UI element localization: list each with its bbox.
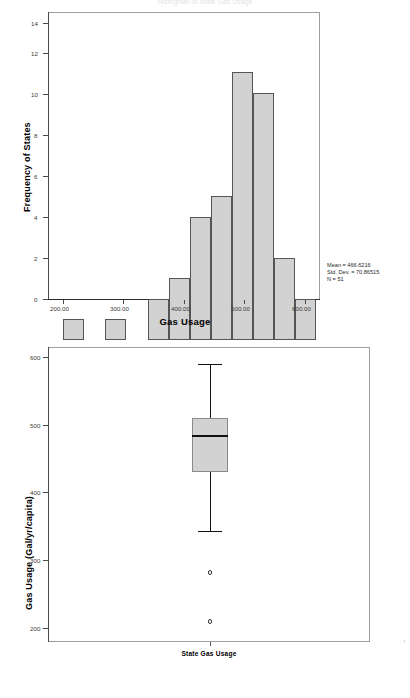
histogram-xtick-label: 600.00 [292,305,311,312]
boxplot-outlier-point [208,619,213,624]
boxplot-y-axis-title: Gas Usage (Gal/yr/capita) [24,496,34,610]
histogram-xtick-label: 400.00 [171,305,190,312]
histogram-ytick-mark [43,299,48,300]
histogram-xtick-mark [123,300,124,304]
histogram-ytick-label: 4 [34,214,37,221]
histogram-y-axis-line [48,12,49,300]
histogram-ytick-mark [43,135,48,136]
histogram-x-axis-title: Gas Usage [0,316,370,327]
histogram-ytick-mark [43,23,48,24]
histogram-ytick-label: 10 [31,91,38,98]
histogram-xtick-mark [244,300,245,304]
histogram-ytick-label: 0 [34,296,37,303]
boxplot-ytick-mark [43,492,48,493]
boxplot-y-axis-line [48,347,49,642]
boxplot-box [192,418,228,472]
histogram-ytick-mark [43,258,48,259]
histogram-ytick-label: 8 [34,132,37,139]
histogram-ytick-label: 2 [34,255,37,262]
histogram-ytick-label: 6 [34,173,37,180]
histogram-xtick-mark [184,300,185,304]
boxplot-ytick-mark [43,628,48,629]
boxplot-outlier-point [208,570,213,575]
chart-title-faded: Histogram of State Gas Usage [0,0,410,5]
histogram-ytick-mark [43,176,48,177]
boxplot-xtick-mark [210,642,211,646]
histogram-panel: Histogram of State Gas Usage 0 2 4 6 8 1… [0,0,410,340]
stat-std-dev: Std. Dev. = 70.86515 [327,269,379,276]
histogram-xtick-label: 500.00 [231,305,250,312]
boxplot-panel: 600 500 400 300 200 State Gas Usage Gas … [0,340,410,698]
stat-n: N = 51 [327,276,379,283]
boxplot-ytick-label: 500 [30,422,40,429]
boxplot-median-line [192,435,228,437]
histogram-xtick-mark [305,300,306,304]
corner-mark: i [404,638,405,644]
histogram-ytick-mark [43,53,48,54]
boxplot-x-axis-title: State Gas Usage [48,650,370,657]
histogram-ytick-mark [43,217,48,218]
histogram-ytick-label: 12 [31,50,38,57]
boxplot-ytick-mark [43,425,48,426]
boxplot-ytick-label: 200 [30,625,40,632]
stat-mean: Mean = 466.6216 [327,262,379,269]
boxplot-lower-whisker [210,472,211,531]
histogram-bar [232,72,253,340]
histogram-xtick-label: 300.00 [110,305,129,312]
histogram-ytick-mark [43,94,48,95]
boxplot-ytick-mark [43,560,48,561]
histogram-bar [274,258,295,340]
boxplot-lower-cap [198,531,222,533]
histogram-bar [253,93,274,340]
histogram-xtick-label: 200.00 [50,305,69,312]
histogram-xtick-mark [63,300,64,304]
histogram-ytick-label: 14 [31,20,38,27]
histogram-statistics-box: Mean = 466.6216 Std. Dev. = 70.86515 N =… [327,262,379,284]
boxplot-upper-cap [198,364,222,366]
boxplot-ytick-mark [43,357,48,358]
boxplot-ytick-label: 400 [30,489,40,496]
boxplot-upper-whisker [210,364,211,418]
boxplot-ytick-label: 600 [30,354,40,361]
histogram-y-axis-title: Frequency of States [22,122,32,212]
